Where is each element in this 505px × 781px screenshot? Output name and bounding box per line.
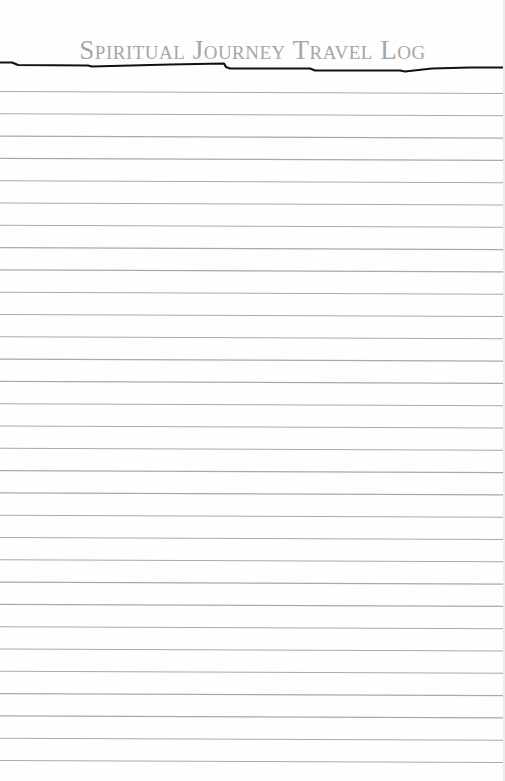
ruled-line — [0, 604, 505, 606]
ruled-line — [0, 315, 505, 317]
ruled-line — [0, 158, 505, 160]
ruled-line — [0, 225, 505, 227]
ruled-line — [0, 471, 505, 473]
ruled-writing-lines — [0, 0, 505, 781]
ruled-line — [0, 738, 505, 740]
ruled-line — [0, 248, 505, 250]
ruled-line — [0, 515, 505, 517]
ruled-line — [0, 203, 505, 205]
ruled-line — [0, 716, 505, 718]
ruled-line — [0, 671, 505, 673]
ruled-line — [0, 560, 505, 562]
ruled-line — [0, 337, 505, 339]
ruled-line — [0, 359, 505, 361]
ruled-line — [0, 136, 505, 138]
ruled-line — [0, 92, 505, 94]
ruled-line — [0, 114, 505, 116]
ruled-line — [0, 426, 505, 428]
ruled-line — [0, 381, 505, 383]
ruled-line — [0, 761, 505, 763]
ruled-line — [0, 270, 505, 272]
ruled-line — [0, 694, 505, 696]
journal-page: Spiritual Journey Travel Log — [0, 0, 505, 781]
ruled-line — [0, 649, 505, 651]
ruled-line — [0, 448, 505, 450]
ruled-line — [0, 404, 505, 406]
ruled-line — [0, 181, 505, 183]
ruled-line — [0, 538, 505, 540]
ruled-line — [0, 292, 505, 294]
ruled-line — [0, 627, 505, 629]
ruled-line — [0, 582, 505, 584]
ruled-line — [0, 493, 505, 495]
